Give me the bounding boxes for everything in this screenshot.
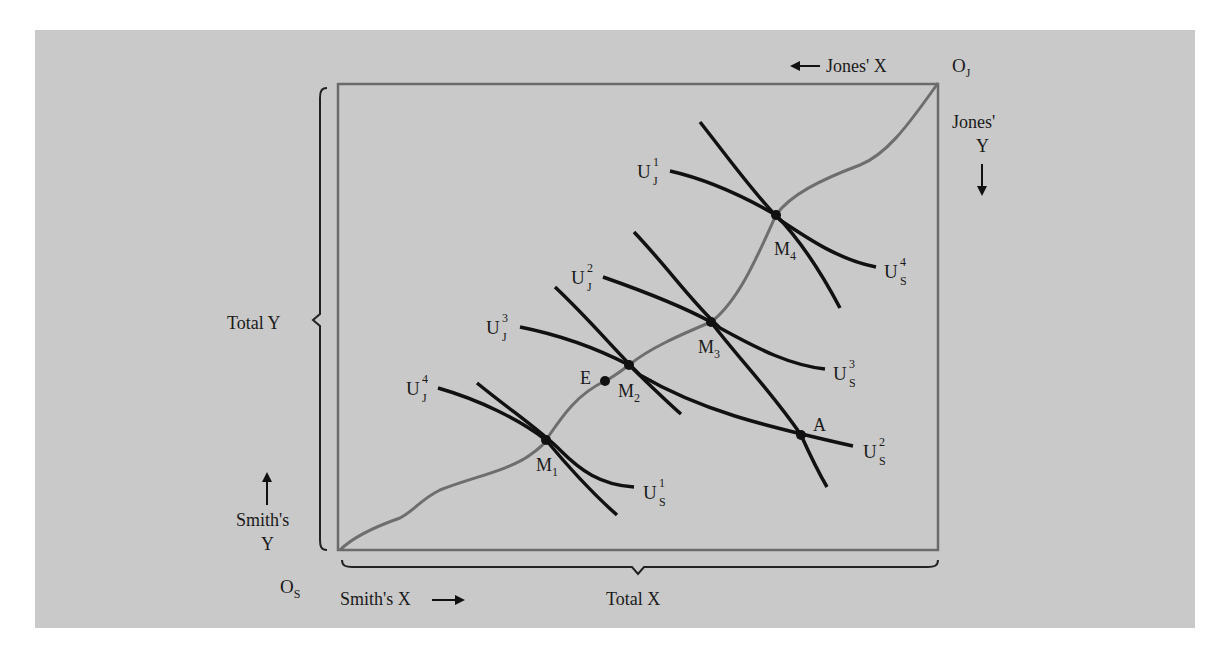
label-uj1: U 1 J	[637, 155, 659, 188]
total-x-label: Total X	[606, 589, 660, 609]
label-m4: M4	[774, 239, 796, 263]
svg-text:U: U	[863, 441, 877, 462]
svg-text:4: 4	[900, 255, 906, 269]
label-uj4: U 4 J	[406, 372, 428, 405]
label-m2: M2	[618, 381, 640, 405]
jones-y-label-line2: Y	[976, 136, 989, 156]
point-m1	[541, 435, 551, 445]
label-a: A	[813, 415, 826, 435]
point-e	[600, 376, 610, 386]
svg-text:U: U	[643, 482, 657, 503]
jones-x-label: Jones' X	[826, 56, 887, 76]
point-m3	[706, 317, 716, 327]
svg-text:J: J	[653, 174, 658, 188]
label-uj2: U 2 J	[571, 261, 593, 294]
svg-text:3: 3	[849, 357, 855, 371]
svg-text:J: J	[502, 330, 507, 344]
svg-text:U: U	[486, 317, 500, 338]
svg-text:4: 4	[422, 372, 428, 386]
jones-y-label-line1: Jones'	[952, 112, 995, 132]
jones-y-arrow-icon	[977, 164, 987, 196]
smith-y-arrow-icon	[262, 472, 272, 505]
indifference-curve-uj2	[603, 277, 827, 487]
svg-text:S: S	[879, 454, 886, 468]
svg-text:S: S	[849, 376, 856, 390]
smith-y-label-line2: Y	[261, 534, 274, 554]
svg-text:U: U	[833, 363, 847, 384]
label-m1: M1	[536, 455, 558, 479]
label-us2: U 2 S	[863, 435, 886, 468]
svg-text:S: S	[900, 274, 907, 288]
label-uj3: U 3 J	[486, 311, 508, 344]
jones-x-arrow-icon	[790, 61, 820, 71]
label-m3: M3	[698, 337, 720, 361]
svg-text:U: U	[406, 378, 420, 399]
total-y-label: Total Y	[227, 313, 281, 333]
smith-y-label-line1: Smith's	[236, 510, 289, 530]
svg-text:U: U	[571, 267, 585, 288]
svg-text:1: 1	[653, 155, 659, 169]
point-m2	[624, 360, 634, 370]
label-us4: U 4 S	[884, 255, 907, 288]
point-a	[796, 430, 806, 440]
edgeworth-box	[338, 84, 938, 550]
svg-text:1: 1	[659, 476, 665, 490]
point-m4	[771, 210, 781, 220]
indifference-curve-uj3	[520, 327, 681, 414]
edgeworth-box-diagram: Jones' X OJ Jones' Y Total Y Smith's Y O…	[0, 0, 1228, 662]
svg-text:U: U	[884, 261, 898, 282]
total-y-brace	[313, 88, 327, 550]
total-x-brace	[342, 560, 938, 574]
contract-curve	[340, 83, 938, 550]
svg-text:2: 2	[879, 435, 885, 449]
origin-jones-label: OJ	[952, 55, 971, 80]
label-e: E	[580, 368, 591, 388]
label-us3: U 3 S	[833, 357, 856, 390]
smith-x-arrow-icon	[432, 595, 465, 605]
svg-text:J: J	[422, 391, 427, 405]
indifference-curve-uj4	[438, 388, 617, 515]
svg-text:S: S	[659, 495, 666, 509]
smith-x-label: Smith's X	[340, 589, 411, 609]
svg-text:U: U	[637, 161, 651, 182]
svg-text:3: 3	[502, 311, 508, 325]
label-us1: U 1 S	[643, 476, 666, 509]
origin-smith-label: OS	[280, 576, 300, 601]
svg-text:J: J	[587, 280, 592, 294]
svg-text:2: 2	[587, 261, 593, 275]
